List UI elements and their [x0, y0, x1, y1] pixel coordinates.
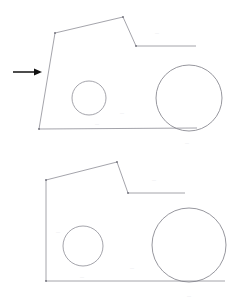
technical-drawing-svg: — — — — — — — — —	[0, 0, 240, 305]
upper-vertex-bottom-left-dot	[38, 128, 40, 130]
upper-small-hole-circle	[72, 81, 106, 115]
upper-vertex-peak-dot	[122, 16, 124, 18]
upper-outline-top-path	[55, 17, 196, 46]
callout-arrow	[13, 69, 42, 76]
upper-large-wheel-circle	[156, 65, 222, 131]
upper-vertex-notch-dot	[135, 45, 137, 47]
lower-dim-label-center: —	[130, 265, 134, 270]
upper-vertex-upper-left-dot	[54, 32, 56, 34]
upper-dim-label-center: —	[120, 110, 124, 115]
drawing-canvas: — — — — — — — — —	[0, 0, 240, 305]
lower-vertex-peak-dot	[116, 161, 118, 163]
lower-profile-drawing: — — — — —	[45, 161, 226, 298]
callout-arrow-head	[34, 69, 42, 76]
lower-outline-left-bottom-path	[46, 180, 225, 281]
upper-outline-left-bottom-path	[39, 33, 197, 129]
lower-vertex-notch-dot	[127, 192, 129, 194]
lower-dim-label-wheel: —	[187, 293, 191, 298]
lower-small-hole-circle	[63, 226, 103, 266]
upper-dim-label-top-right: —	[155, 30, 159, 35]
lower-vertex-bottom-left-dot	[45, 280, 47, 282]
lower-dim-label-bottom: —	[80, 274, 84, 279]
lower-large-wheel-circle	[152, 208, 226, 282]
lower-outline-top-path	[46, 162, 185, 193]
lower-dim-label-left-edge: —	[56, 229, 60, 234]
upper-dim-label-wheel: —	[185, 140, 189, 145]
upper-dim-label-bottom: —	[95, 121, 99, 126]
upper-profile-drawing: — — — —	[38, 16, 222, 145]
lower-vertex-upper-left-dot	[45, 179, 47, 181]
lower-dim-label-top-right: —	[152, 177, 156, 182]
